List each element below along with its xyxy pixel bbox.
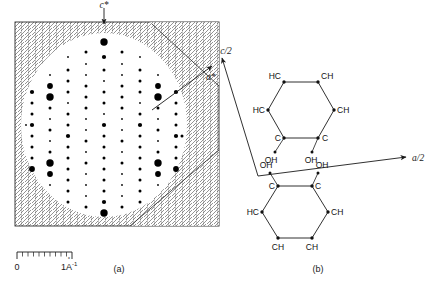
diffraction-spot	[85, 129, 87, 131]
diffraction-spot	[49, 74, 51, 76]
diffraction-spot	[139, 168, 142, 171]
diffraction-spot	[67, 146, 70, 149]
scale-bar: 0 1A-1 °	[14, 252, 78, 272]
diffraction-spot	[100, 38, 107, 45]
diffraction-spot	[47, 171, 53, 177]
ring-vertex	[276, 236, 279, 239]
diffraction-spot	[181, 135, 184, 138]
scale-bar-zero-label: 0	[14, 262, 19, 272]
diffraction-spot	[175, 146, 178, 149]
atom-label: CH	[321, 71, 333, 81]
panel-a: c* a* 0 1A-1 ° (a)	[14, 0, 219, 274]
diffraction-spot	[31, 157, 34, 160]
diffraction-spot	[175, 113, 178, 116]
diffraction-spot	[67, 91, 70, 94]
diffraction-spot	[30, 123, 34, 127]
diffraction-spot	[157, 129, 160, 132]
diffraction-spot	[46, 159, 53, 166]
diffraction-spot	[49, 129, 52, 132]
molecule-hydroquinone-lower: C C CH CH CH HC OH OH	[247, 160, 344, 252]
diffraction-spot	[47, 83, 53, 89]
diffraction-spot	[157, 74, 159, 76]
diffraction-spot	[121, 195, 123, 197]
ring-vertex	[326, 210, 329, 213]
axis-c-star-label: c*	[100, 0, 109, 10]
diffraction-spot	[67, 190, 70, 193]
panel-label-a: (a)	[114, 264, 125, 274]
diffraction-spot	[49, 118, 51, 120]
panel-b: c/2 a/2 HC CH CH C C HC	[220, 46, 424, 274]
diffraction-spot	[121, 173, 123, 175]
axis-c-star: c*	[100, 0, 109, 24]
diffraction-spot	[67, 168, 70, 171]
diffraction-spot	[139, 179, 142, 182]
oh-vertex	[274, 151, 277, 154]
diffraction-spot	[157, 107, 160, 110]
diffraction-spot	[175, 124, 178, 127]
diffraction-spot	[85, 63, 87, 65]
diffraction-spot	[154, 159, 161, 166]
panel-label-b: (b)	[313, 264, 324, 274]
atom-label: C	[315, 181, 321, 191]
oh-vertex	[269, 172, 272, 175]
diffraction-spot	[46, 93, 53, 100]
diffraction-spot	[85, 140, 88, 143]
diffraction-spot	[155, 171, 161, 177]
diffraction-spot	[49, 107, 52, 110]
diffraction-spot	[121, 107, 124, 110]
diffraction-spot	[139, 102, 141, 104]
atom-label: C	[322, 133, 328, 143]
diffraction-spot	[175, 102, 178, 105]
diffraction-spot	[67, 69, 70, 72]
diffraction-spot	[121, 151, 123, 153]
diffraction-spot	[139, 113, 142, 116]
diffraction-spot	[103, 168, 106, 171]
vector-c-half-label: c/2	[220, 46, 232, 56]
diffraction-spot	[31, 102, 34, 105]
atom-label: HC	[269, 71, 281, 81]
diffraction-spot	[139, 69, 142, 72]
diffraction-spot	[49, 140, 51, 142]
diffraction-spot	[100, 209, 107, 216]
diffraction-spot	[103, 179, 106, 182]
diffraction-spot	[67, 80, 70, 83]
oh-vertex	[317, 172, 320, 175]
atom-label: CH	[306, 242, 318, 252]
figure-canvas: c* a* 0 1A-1 ° (a) c/2 a/2	[0, 0, 437, 287]
atom-label: CH	[331, 207, 343, 217]
diffraction-spot	[157, 151, 160, 154]
diffraction-spot	[30, 90, 34, 94]
diffraction-spot	[85, 85, 88, 88]
atom-label: CH	[337, 105, 349, 115]
diffraction-spot	[67, 157, 70, 160]
diffraction-spot	[103, 80, 105, 82]
diffraction-spot	[103, 157, 106, 160]
diffraction-spot	[121, 63, 123, 65]
diffraction-spot	[29, 166, 35, 172]
diffraction-spot	[157, 184, 159, 186]
ring-vertex	[266, 108, 269, 111]
diffraction-spot	[85, 107, 88, 110]
scale-bar-unit-label: 1A-1	[61, 261, 78, 272]
diffraction-spot	[139, 135, 142, 138]
substituent-label: OH	[316, 160, 329, 170]
atom-label: HC	[253, 105, 265, 115]
atom-label: CH	[272, 242, 284, 252]
diffraction-spot	[66, 134, 70, 138]
diffraction-spot	[103, 190, 106, 193]
ring-vertex	[316, 80, 319, 83]
atom-label: HC	[247, 207, 259, 217]
bond-to-oh	[312, 138, 318, 152]
diffraction-spot	[139, 146, 142, 149]
diffraction-spot	[49, 151, 52, 154]
ring-vertex	[260, 210, 263, 213]
diffraction-spot	[31, 135, 34, 138]
diffraction-spot	[157, 140, 159, 142]
diffraction-spot	[103, 146, 106, 149]
molecule-hydroquinone-upper: HC CH CH C C HC OH OH	[253, 71, 350, 165]
diffraction-spot	[121, 74, 123, 76]
diffraction-spot	[139, 190, 142, 193]
diffraction-spot	[67, 56, 69, 58]
diffraction-spot	[173, 166, 179, 172]
ring-vertex	[332, 108, 335, 111]
